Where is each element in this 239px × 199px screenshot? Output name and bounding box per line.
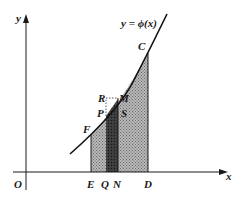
y-axis-arrow-icon <box>23 14 29 23</box>
diagram-canvas: y x O y = ϕ(x) C F R M P S E Q N D <box>0 0 239 199</box>
point-r-label: R <box>97 92 105 104</box>
point-e-label: E <box>86 178 94 190</box>
point-s-label: S <box>121 107 127 119</box>
point-p-label: P <box>97 107 104 119</box>
curve-label: y = ϕ(x) <box>119 17 157 30</box>
y-axis-label: y <box>14 12 21 24</box>
point-n-label: N <box>112 178 122 190</box>
region-strip-qn <box>106 99 118 172</box>
origin-label: O <box>14 178 22 190</box>
point-d-label: D <box>143 178 152 190</box>
point-f-label: F <box>82 123 91 135</box>
point-c-label: C <box>138 40 146 52</box>
point-m-label: M <box>118 92 130 104</box>
point-q-label: Q <box>101 178 109 190</box>
x-axis-label: x <box>225 170 232 182</box>
